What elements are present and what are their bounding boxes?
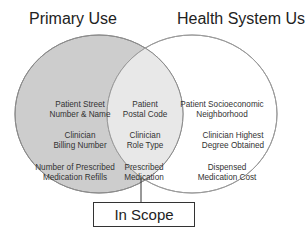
label-line: Clinician: [53, 131, 106, 141]
in-scope-callout: In Scope: [93, 202, 195, 227]
overlap-item-role-type: Clinician Role Type: [127, 131, 164, 151]
left-item-clinician-billing: Clinician Billing Number: [53, 131, 106, 151]
overlap-item-postal-code: Patient Postal Code: [123, 100, 168, 120]
overlap-item-prescribed-medication: Prescribed Medication: [124, 163, 164, 183]
right-item-highest-degree: Clinician Highest Degree Obtained: [202, 131, 264, 151]
label-line: Medication: [124, 173, 164, 183]
primary-use-title: Primary Use: [29, 10, 117, 28]
right-item-socioeconomic: Patient Socioeconomic Neighborhood: [180, 100, 263, 120]
label-line: Medication Cost: [198, 173, 257, 183]
health-system-use-title: Health System Use: [177, 10, 305, 28]
label-line: Patient: [123, 100, 168, 110]
label-line: Patient Street: [50, 100, 111, 110]
label-line: Billing Number: [53, 141, 106, 151]
label-line: Prescribed: [124, 163, 164, 173]
right-item-dispensed-cost: Dispensed Medication Cost: [198, 163, 257, 183]
in-scope-label: In Scope: [114, 206, 173, 223]
label-line: Number & Name: [50, 110, 111, 120]
label-line: Medication Refills: [35, 173, 115, 183]
label-line: Clinician: [127, 131, 164, 141]
label-line: Clinician Highest: [202, 131, 264, 141]
left-item-prescribed-refills: Number of Prescribed Medication Refills: [35, 163, 115, 183]
label-line: Dispensed: [198, 163, 257, 173]
left-item-patient-street: Patient Street Number & Name: [50, 100, 111, 120]
label-line: Role Type: [127, 141, 164, 151]
label-line: Degree Obtained: [202, 141, 264, 151]
label-line: Postal Code: [123, 110, 168, 120]
label-line: Number of Prescribed: [35, 163, 115, 173]
label-line: Patient Socioeconomic: [180, 100, 263, 110]
label-line: Neighborhood: [180, 110, 263, 120]
